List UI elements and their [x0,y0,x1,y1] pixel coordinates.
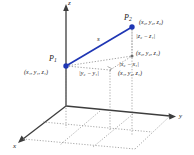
vertical-guides [66,27,132,135]
point-corner-marker [131,55,134,58]
point-p2-subscript: 2 [129,16,132,22]
point-p1-marker [63,63,68,68]
right-angle-corner-mark [108,67,112,72]
point-p2-name: P2 [124,14,132,23]
grid-edge-right [135,116,170,149]
distance-label-s: s [97,36,100,43]
delta-z-label: |z₂ − z₁| [136,33,155,39]
point-p2-marker [129,24,134,29]
point-p2-coordinates: (x₂, y₂, z₂) [139,19,163,25]
point-corner-coordinates: (x₂, y₂, z₁) [136,50,160,56]
base-plane-grid [23,111,170,149]
x-axis-arrowhead [18,135,25,143]
point-p1-coordinates: (x₁, y₁, z₁) [24,69,48,75]
y-axis-label: y [179,113,182,120]
y-axis-line [66,106,170,116]
x-axis-line [23,106,66,139]
three-d-distance-diagram: z y x P1 (x₁, y₁, z₁) P2 (x₂, y₂, z₂) (x… [0,0,194,155]
x-axis-label: x [13,143,16,150]
delta-x-label: |x₂ − x₁| [119,61,139,67]
right-angle-mark [108,67,112,72]
point-foot-coordinates: (x₁, y₂, z₁) [118,70,142,76]
grid-edge-front [23,139,135,149]
point-p1-name: P1 [49,55,57,64]
grid-line-x-2 [93,114,133,147]
diagram-canvas [0,0,194,155]
delta-y-label: |y₂ − y₁| [79,70,99,76]
point-p1-subscript: 1 [54,57,57,63]
z-axis-label: z [68,0,71,7]
grid-line-y-1 [43,122,152,132]
